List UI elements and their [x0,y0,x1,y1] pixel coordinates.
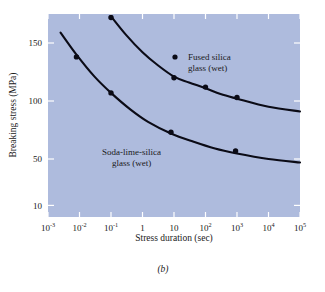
y-tick-label: 150 [29,38,43,48]
data-point [74,54,79,59]
data-point [233,148,238,153]
plot-area-background [48,14,300,217]
y-tick-label: 50 [33,154,43,164]
y-axis-label: Breaking stress (MPa) [8,73,19,158]
annotation-soda-lime-silica-line2: glass (wet) [112,158,151,168]
figure-caption: (b) [157,264,168,275]
data-point [203,84,208,89]
data-point [234,95,239,100]
y-tick-label: 10 [33,201,43,211]
fused-silica-marker-icon [172,54,177,59]
annotation-fused-silica-line2: glass (wet) [188,63,227,73]
chart-svg: 10-310-210-1110102103104105 1501005010 F… [0,0,325,292]
data-point [168,130,173,135]
data-point [171,75,176,80]
figure-container: 10-310-210-1110102103104105 1501005010 F… [0,0,325,292]
x-tick-label: 10 [170,223,180,233]
annotation-fused-silica-line1: Fused silica [188,52,231,62]
x-axis-tick-labels: 10-310-210-1110102103104105 [41,221,306,233]
y-tick-label: 100 [29,96,43,106]
x-axis-label: Stress duration (sec) [135,233,213,244]
annotation-soda-lime-silica-line1: Soda-lime-silica [102,147,161,157]
data-point [108,90,113,95]
data-point [108,15,113,20]
x-tick-label: 1 [140,223,145,233]
